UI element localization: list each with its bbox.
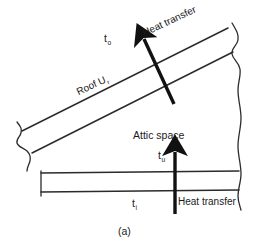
attic-space-label: Attic space: [133, 130, 184, 141]
ceiling-bottom-surface: [41, 190, 239, 192]
roof-outer-surface: [22, 28, 228, 131]
indoor-temperature-label: ti: [132, 198, 136, 209]
attic-temperature-label: tu: [158, 150, 165, 161]
diagram-canvas: [0, 0, 260, 251]
ceiling-top-surface: [41, 171, 239, 173]
right-break-line: [232, 23, 241, 210]
attic-heat-transfer-figure: to Roof Ur Heat transfer Attic space tu …: [0, 0, 260, 251]
figure-caption: (a): [118, 226, 131, 237]
left-break-line: [17, 122, 31, 171]
ceiling-heat-transfer-label: Heat transfer: [178, 197, 236, 207]
outdoor-temperature-label: to: [104, 33, 111, 44]
